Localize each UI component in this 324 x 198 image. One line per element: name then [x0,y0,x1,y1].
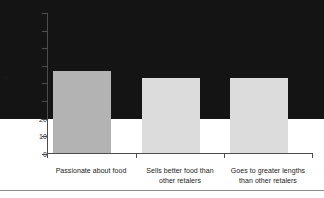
y-axis-title: % [2,76,9,82]
bar-passionate-about-food [53,71,111,153]
x-tick-mark-1 [136,153,137,158]
bars-container [47,13,313,153]
x-category-label-2: Goes to greater lengths than other retal… [210,166,324,185]
bar-sells-better-food [142,78,200,153]
x-category-label-2-line-0: Goes to greater lengths [210,166,324,176]
x-tick-mark-0 [47,153,48,158]
bar-chart: % 80 70 60 50 40 30 20 10 0 [0,0,324,119]
x-category-label-2-line-1: than other retalers [210,176,324,186]
x-tick-mark-3 [312,153,313,158]
x-tick-mark-2 [224,153,225,158]
bar-goes-to-greater-lengths [230,78,288,153]
x-axis-line [47,153,313,154]
footer-divider [0,190,324,191]
